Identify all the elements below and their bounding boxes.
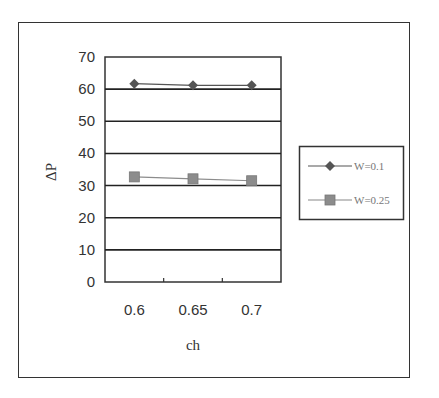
y-tick-label: 30 [78, 177, 95, 194]
plot-border [105, 57, 281, 282]
x-tick-label: 0.6 [124, 301, 145, 318]
y-tick-label: 50 [78, 112, 95, 129]
line-chart: 010203040506070 0.60.650.7 ΔP ch W=0.1 W… [0, 0, 439, 398]
y-tick-label: 60 [78, 80, 95, 97]
x-tick-label: 0.65 [178, 301, 207, 318]
x-axis-title: ch [186, 337, 201, 353]
y-tick-label: 20 [78, 209, 95, 226]
x-tick-label: 0.7 [241, 301, 262, 318]
y-axis-ticks: 010203040506070 [78, 48, 95, 290]
legend-label: W=0.25 [354, 194, 390, 206]
y-axis-title: ΔP [43, 163, 59, 181]
x-axis-ticks: 0.60.650.7 [124, 301, 262, 318]
legend: W=0.1 W=0.25 [300, 147, 404, 220]
square-marker-icon [188, 174, 198, 184]
y-tick-label: 40 [78, 144, 95, 161]
legend-box [300, 147, 404, 220]
y-tick-label: 10 [78, 241, 95, 258]
square-marker-icon [247, 176, 257, 186]
y-tick-label: 0 [87, 273, 95, 290]
y-tick-label: 70 [78, 48, 95, 65]
plot-area [105, 57, 281, 282]
square-marker-icon [129, 172, 139, 182]
square-marker-icon [325, 195, 335, 205]
legend-label: W=0.1 [354, 160, 384, 172]
